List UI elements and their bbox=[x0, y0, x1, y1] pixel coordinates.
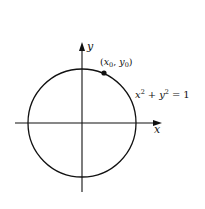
eq-x-exp: 2 bbox=[141, 88, 145, 96]
unit-circle-diagram: y x (x0,y0) x2+y2=1 bbox=[0, 0, 205, 209]
eq-equals: = bbox=[172, 89, 180, 100]
circle-equation: x2+y2=1 bbox=[135, 88, 190, 100]
point-marker bbox=[101, 70, 106, 75]
x-axis-label: x bbox=[154, 123, 161, 136]
y-axis-label: y bbox=[86, 40, 94, 53]
point-label: (x0,y0) bbox=[100, 56, 132, 69]
comma: , bbox=[113, 56, 116, 67]
eq-y-exp: 2 bbox=[165, 88, 169, 96]
eq-plus: + bbox=[148, 89, 156, 100]
eq-rhs: 1 bbox=[183, 89, 189, 100]
diagram-svg: y x (x0,y0) x2+y2=1 bbox=[0, 0, 205, 209]
y-axis-arrow-icon bbox=[79, 42, 85, 51]
close-paren: ) bbox=[129, 56, 133, 67]
